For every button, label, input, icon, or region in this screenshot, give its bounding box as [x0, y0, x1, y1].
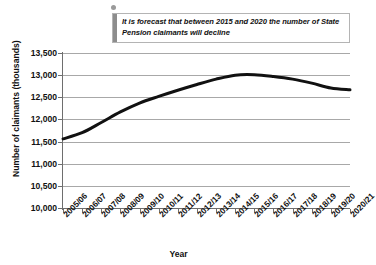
y-tick-label: 10,500 [3, 181, 57, 191]
y-tick-mark [58, 142, 63, 143]
y-tick-label: 11,500 [3, 137, 57, 147]
y-tick-label: 12,000 [3, 114, 57, 124]
x-axis-tick-labels: 2005/062006/072007/082008/092009/102010/… [0, 212, 357, 252]
y-tick-mark [58, 164, 63, 165]
y-tick-label: 13,500 [3, 48, 57, 58]
y-tick-mark [58, 186, 63, 187]
forecast-annotation: It is forecast that between 2015 and 202… [112, 13, 350, 43]
y-tick-mark [58, 53, 63, 54]
y-tick-mark [58, 75, 63, 76]
y-tick-label: 13,000 [3, 70, 57, 80]
annotation-accent-bar [113, 14, 117, 42]
y-tick-mark [58, 208, 63, 209]
series-line-state-pension-claimants [63, 53, 350, 208]
y-tick-mark [58, 97, 63, 98]
series-path [63, 75, 350, 139]
plot-area [63, 53, 350, 208]
y-tick-mark [58, 119, 63, 120]
y-tick-label: 11,000 [3, 159, 57, 169]
annotation-box: It is forecast that between 2015 and 202… [112, 13, 350, 43]
x-axis-title: Year [0, 249, 357, 259]
callout-dot-icon [111, 5, 116, 10]
annotation-text: It is forecast that between 2015 and 202… [122, 17, 344, 38]
y-tick-label: 12,500 [3, 92, 57, 102]
